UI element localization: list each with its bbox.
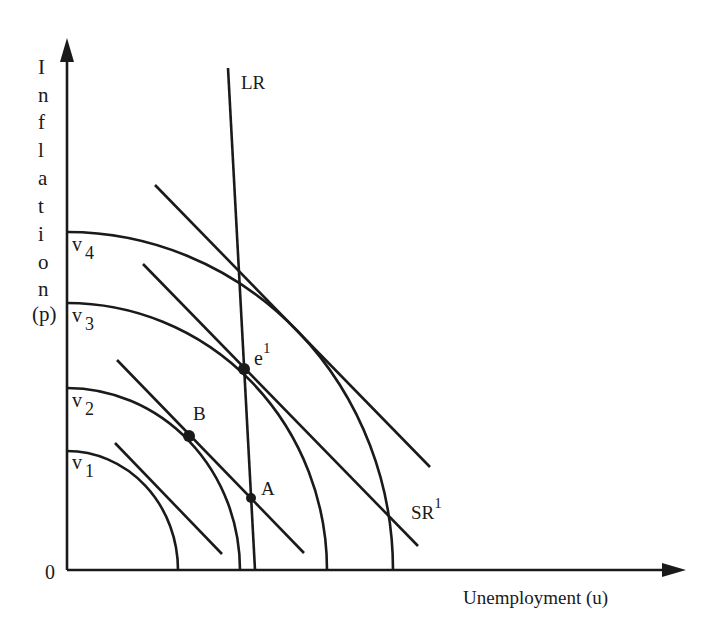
point-b bbox=[183, 430, 195, 442]
y-axis-symbol: (p) bbox=[32, 304, 57, 325]
curve-v3 bbox=[67, 303, 327, 570]
label-v4: v4 bbox=[72, 234, 94, 254]
y-label-letter: l bbox=[38, 140, 44, 161]
origin-label: 0 bbox=[45, 562, 55, 582]
curve-v4 bbox=[67, 232, 393, 570]
label-b: B bbox=[193, 404, 206, 423]
diagram-canvas bbox=[0, 0, 715, 639]
short-run-line-3 bbox=[143, 264, 418, 546]
y-label-letter: n bbox=[38, 279, 49, 300]
short-run-line-2 bbox=[117, 360, 304, 553]
y-label-letter: f bbox=[38, 112, 45, 133]
label-lr: LR bbox=[241, 73, 265, 92]
label-a: A bbox=[261, 479, 275, 498]
label-sr1: SR1 bbox=[411, 500, 442, 522]
label-v1: v1 bbox=[72, 452, 94, 472]
label-v3: v3 bbox=[72, 305, 94, 325]
y-label-letter: a bbox=[38, 168, 47, 189]
y-label-letter: o bbox=[38, 252, 49, 273]
label-e1: e1 bbox=[254, 345, 270, 368]
y-label-letter: i bbox=[38, 224, 44, 245]
y-label-letter: n bbox=[38, 85, 49, 106]
x-axis-arrow-icon bbox=[662, 563, 686, 577]
short-run-line-4 bbox=[155, 185, 430, 467]
x-axis-label: Unemployment (u) bbox=[463, 588, 608, 607]
label-v2: v2 bbox=[72, 390, 94, 410]
y-label-letter: I bbox=[38, 57, 45, 78]
y-label-letter: t bbox=[38, 196, 44, 217]
point-a bbox=[246, 493, 256, 503]
y-axis-arrow-icon bbox=[60, 38, 74, 62]
point-e1 bbox=[238, 363, 250, 375]
